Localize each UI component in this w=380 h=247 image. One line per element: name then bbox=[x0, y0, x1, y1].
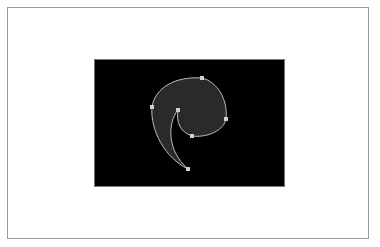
anchor-point[interactable] bbox=[224, 117, 228, 121]
anchor-point[interactable] bbox=[176, 108, 180, 112]
anchor-point[interactable] bbox=[150, 105, 154, 109]
anchor-point[interactable] bbox=[190, 134, 194, 138]
anchor-point[interactable] bbox=[186, 167, 190, 171]
anchor-point[interactable] bbox=[200, 76, 204, 80]
spiral-path[interactable] bbox=[152, 78, 226, 169]
spiral-shape bbox=[0, 0, 380, 247]
